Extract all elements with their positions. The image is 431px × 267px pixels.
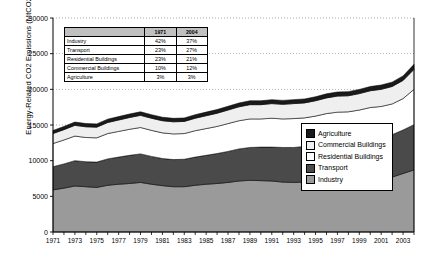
legend-item: Transport: [306, 163, 386, 175]
legend-swatch-icon: [306, 129, 315, 138]
share-table-category: Transport: [65, 46, 145, 55]
y-tick-label: 15000: [0, 122, 48, 129]
share-table-row: Commercial Buildings10%12%: [65, 64, 208, 73]
legend-swatch-icon: [306, 152, 315, 161]
legend-item-label: Transport: [318, 164, 348, 172]
chart-legend: AgricultureCommercial BuildingsResidenti…: [301, 123, 393, 191]
share-table-header-blank: [65, 28, 145, 37]
share-table-header-1971: 1971: [145, 28, 176, 37]
legend-item-label: Residential Buildings: [318, 153, 383, 161]
share-table-value-1971: 3%: [145, 73, 176, 82]
legend-item: Residential Buildings: [306, 151, 386, 163]
share-table-body: Industry42%37%Transport23%27%Residential…: [65, 37, 208, 82]
share-table-head: 1971 2004: [65, 28, 208, 37]
legend-swatch-icon: [306, 164, 315, 173]
share-table-value-2004: 3%: [176, 73, 207, 82]
share-table-value-2004: 12%: [176, 64, 207, 73]
share-table-value-1971: 10%: [145, 64, 176, 73]
share-table-value-1971: 23%: [145, 46, 176, 55]
legend-swatch-icon: [306, 175, 315, 184]
share-table-row: Industry42%37%: [65, 37, 208, 46]
y-tick-label: 5000: [0, 193, 48, 200]
share-table-row: Residential Buildings23%21%: [65, 55, 208, 64]
share-table-category: Industry: [65, 37, 145, 46]
y-tick-label: 10000: [0, 157, 48, 164]
y-tick-label: 20000: [0, 86, 48, 93]
share-table-value-1971: 23%: [145, 55, 176, 64]
legend-item: Industry: [306, 174, 386, 186]
share-table-row: Agriculture3%3%: [65, 73, 208, 82]
legend-swatch-icon: [306, 141, 315, 150]
y-tick-label: 0: [0, 229, 48, 236]
share-table-header-row: 1971 2004: [65, 28, 208, 37]
legend-item-label: Commercial Buildings: [318, 141, 386, 149]
share-table-category: Commercial Buildings: [65, 64, 145, 73]
legend-item: Agriculture: [306, 128, 386, 140]
legend-item: Commercial Buildings: [306, 140, 386, 152]
share-table-row: Transport23%27%: [65, 46, 208, 55]
share-table-value-2004: 27%: [176, 46, 207, 55]
share-table-header-2004: 2004: [176, 28, 207, 37]
stacked-area-chart: Energy-Related CO2 Emissions (MtCO2) 050…: [0, 0, 431, 267]
y-tick-label: 30000: [0, 15, 48, 22]
share-table-value-2004: 37%: [176, 37, 207, 46]
share-table-category: Agriculture: [65, 73, 145, 82]
share-table-value-2004: 21%: [176, 55, 207, 64]
sector-share-table: 1971 2004 Industry42%37%Transport23%27%R…: [64, 27, 208, 82]
x-tick-label: 2003: [388, 237, 418, 244]
y-tick-label: 25000: [0, 50, 48, 57]
legend-item-label: Industry: [318, 176, 343, 184]
share-table-value-1971: 42%: [145, 37, 176, 46]
legend-item-label: Agriculture: [318, 130, 351, 138]
share-table-category: Residential Buildings: [65, 55, 145, 64]
